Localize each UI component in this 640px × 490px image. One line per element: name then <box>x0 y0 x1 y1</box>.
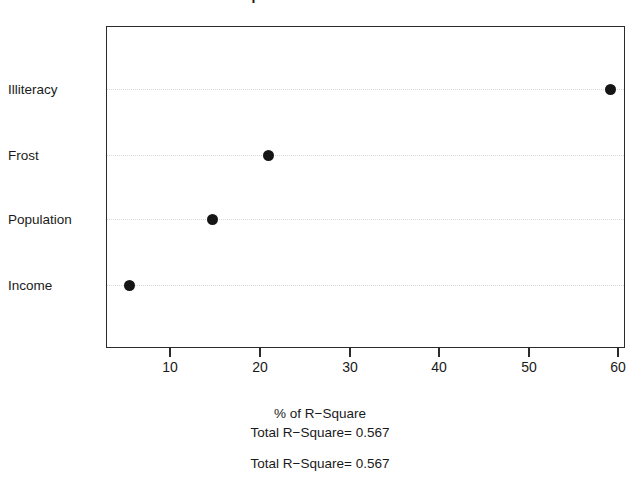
x-tick-mark-20 <box>259 348 261 357</box>
x-axis-caption: % of R−Square <box>0 404 640 423</box>
data-point-income[interactable] <box>124 280 135 291</box>
y-axis-label-group: Illiteracy Frost Population Income <box>8 26 100 348</box>
plot-area <box>106 26 625 348</box>
total-r-square-footnote: Total R−Square= 0.567 <box>0 454 640 473</box>
chart-title: Relative Importance of Predictor Variabl… <box>0 0 640 3</box>
x-tick-label-30: 30 <box>342 359 358 375</box>
gridline-population <box>107 219 624 221</box>
x-axis: 10 20 30 40 50 60 <box>106 348 625 388</box>
total-r-square-caption: Total R−Square= 0.567 <box>0 423 640 442</box>
gridline-income <box>107 285 624 287</box>
y-axis-label-population: Population <box>8 212 108 227</box>
x-tick-label-50: 50 <box>521 359 537 375</box>
footnote-block: Total R−Square= 0.567 <box>0 454 640 473</box>
x-tick-label-10: 10 <box>162 359 178 375</box>
y-axis-label-income: Income <box>8 278 108 293</box>
y-axis-label-frost: Frost <box>8 148 108 163</box>
data-point-illiteracy[interactable] <box>605 84 616 95</box>
x-tick-mark-50 <box>528 348 530 357</box>
x-tick-mark-30 <box>349 348 351 357</box>
x-tick-mark-40 <box>438 348 440 357</box>
x-tick-label-60: 60 <box>610 359 626 375</box>
data-point-frost[interactable] <box>263 150 274 161</box>
x-tick-mark-10 <box>169 348 171 357</box>
x-tick-label-40: 40 <box>431 359 447 375</box>
gridline-frost <box>107 155 624 157</box>
y-axis-label-illiteracy: Illiteracy <box>8 82 108 97</box>
x-tick-label-20: 20 <box>252 359 268 375</box>
data-point-population[interactable] <box>207 214 218 225</box>
x-tick-mark-60 <box>617 348 619 357</box>
gridline-illiteracy <box>107 89 624 91</box>
caption-block: % of R−Square Total R−Square= 0.567 <box>0 404 640 442</box>
